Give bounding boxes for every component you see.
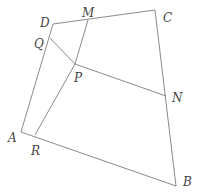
label-b: B	[182, 175, 192, 189]
label-r: R	[30, 144, 40, 158]
label-d: D	[39, 16, 50, 30]
segment-pn	[75, 64, 166, 96]
label-a: A	[7, 131, 17, 145]
segment-pm	[75, 20, 88, 64]
diagram-canvas: D M C Q P N A R B	[0, 0, 201, 196]
segments	[21, 10, 176, 186]
label-q: Q	[34, 37, 44, 51]
label-n: N	[171, 91, 183, 105]
segment-ab	[21, 132, 176, 186]
segment-pr	[35, 64, 75, 135]
label-m: M	[81, 6, 95, 20]
segment-pq	[50, 38, 75, 64]
geometry-figure: D M C Q P N A R B	[0, 0, 201, 196]
label-p: P	[73, 71, 83, 85]
segment-cd	[53, 10, 155, 24]
label-c: C	[163, 11, 172, 25]
point-labels: D M C Q P N A R B	[7, 6, 192, 189]
